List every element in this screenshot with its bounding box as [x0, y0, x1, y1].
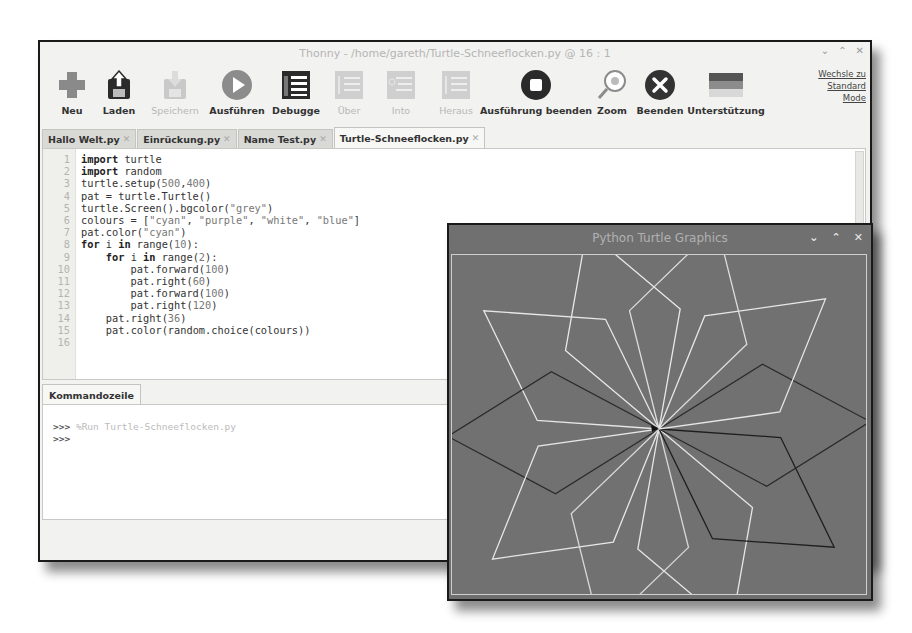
- petal-shape: [484, 311, 659, 429]
- close-button[interactable]: ✕: [856, 45, 864, 56]
- window-title: Thonny - /home/gareth/Turtle-Schneeflock…: [40, 42, 870, 64]
- debug-button[interactable]: Debugge: [268, 70, 324, 116]
- quit-icon: [643, 70, 677, 100]
- load-icon: [102, 70, 136, 100]
- snowflake-drawing: [452, 255, 866, 594]
- code-line: for i in range(2):: [81, 251, 360, 263]
- step-into-icon: [384, 70, 418, 100]
- flag-icon: [709, 70, 743, 100]
- code-line: pat.color(random.choice(colours)): [81, 324, 360, 336]
- load-button[interactable]: Laden: [94, 70, 144, 116]
- code-line: pat.forward(100): [81, 263, 360, 275]
- turtle-graphics-window: Python Turtle Graphics ⌄ ⌃ ✕: [447, 223, 873, 601]
- code-line: for i in range(10):: [81, 238, 360, 250]
- close-tab-icon[interactable]: ✕: [123, 134, 131, 144]
- stop-icon: [519, 70, 553, 100]
- shell-prompt: >>>: [53, 433, 70, 444]
- new-button[interactable]: Neu: [50, 70, 94, 116]
- play-icon: [220, 70, 254, 100]
- code-line: turtle.setup(500,400): [81, 177, 360, 189]
- run-button[interactable]: Ausführen: [206, 70, 268, 116]
- code-line: pat.right(120): [81, 299, 360, 311]
- shell-line: >>>: [53, 433, 236, 445]
- maximize-button[interactable]: ⌃: [838, 45, 846, 56]
- petal-shape: [659, 299, 826, 429]
- petal-shape: [452, 372, 659, 494]
- close-tab-icon[interactable]: ✕: [319, 134, 327, 144]
- shell-command: %Run Turtle-Schneeflocken.py: [76, 421, 236, 432]
- tab-einrueckung[interactable]: Einrückung.py ✕: [137, 129, 236, 148]
- window-controls: ⌄ ⌃ ✕: [821, 45, 864, 56]
- step-into-button[interactable]: Into: [374, 70, 428, 116]
- step-out-button[interactable]: Heraus: [428, 70, 484, 116]
- line-numbers: 12345678910111213141516: [43, 153, 70, 348]
- zoom-button[interactable]: Zoom: [588, 70, 636, 116]
- code-line: colours = ["cyan", "purple", "white", "b…: [81, 214, 360, 226]
- quit-button[interactable]: Beenden: [636, 70, 684, 116]
- turtle-window-controls: ⌄ ⌃ ✕: [809, 231, 863, 244]
- line-number-gutter: 12345678910111213141516: [43, 149, 76, 379]
- code-line: import turtle: [81, 153, 360, 165]
- close-tab-icon[interactable]: ✕: [472, 133, 480, 143]
- stop-button[interactable]: Ausführung beenden: [484, 70, 588, 116]
- petal-shape: [659, 364, 866, 486]
- turtle-window-title: Python Turtle Graphics: [449, 225, 871, 251]
- switch-mode-link[interactable]: Wechsle zu Standard Mode: [818, 68, 866, 104]
- code-line: [81, 336, 360, 348]
- tab-hallo-welt[interactable]: Hallo Welt.py ✕: [42, 129, 136, 148]
- petal-shape: [638, 429, 753, 594]
- zoom-icon: [595, 70, 629, 100]
- save-icon: [158, 70, 192, 100]
- debug-icon: [279, 70, 313, 100]
- code-line: pat.right(36): [81, 312, 360, 324]
- close-tab-icon[interactable]: ✕: [223, 134, 231, 144]
- step-out-icon: [439, 70, 473, 100]
- code-line: pat.color("cyan"): [81, 226, 360, 238]
- support-button[interactable]: Unterstützung: [684, 70, 768, 116]
- editor-tabs: Hallo Welt.py ✕ Einrückung.py ✕ Name Tes…: [42, 128, 486, 148]
- save-button[interactable]: Speichern: [144, 70, 206, 116]
- code-line: pat.forward(100): [81, 287, 360, 299]
- minimize-button[interactable]: ⌄: [821, 45, 829, 56]
- tab-shell[interactable]: Kommandozeile: [42, 384, 141, 405]
- petal-shape: [493, 429, 660, 559]
- petal-shape: [659, 429, 834, 547]
- tab-turtle-schneeflocken[interactable]: Turtle-Schneeflocken.py ✕: [334, 127, 486, 148]
- petal-shape: [566, 255, 681, 429]
- shell-line: >>> %Run Turtle-Schneeflocken.py: [53, 421, 236, 433]
- shell-prompt: >>>: [53, 421, 70, 432]
- code-line: pat.right(60): [81, 275, 360, 287]
- plus-icon: [55, 70, 89, 100]
- code-text[interactable]: import turtleimport randomturtle.setup(5…: [81, 153, 360, 348]
- turtle-canvas[interactable]: [451, 254, 867, 595]
- minimize-button[interactable]: ⌄: [809, 231, 818, 244]
- toolbar: Neu Laden Speichern Ausführen: [50, 70, 870, 120]
- step-over-icon: [332, 70, 366, 100]
- code-line: import random: [81, 165, 360, 177]
- close-button[interactable]: ✕: [854, 231, 863, 244]
- step-over-button[interactable]: Über: [324, 70, 374, 116]
- code-line: turtle.Screen().bgcolor("grey"): [81, 202, 360, 214]
- code-line: pat = turtle.Turtle(): [81, 190, 360, 202]
- maximize-button[interactable]: ⌃: [832, 231, 841, 244]
- tab-name-test[interactable]: Name Test.py ✕: [238, 129, 333, 148]
